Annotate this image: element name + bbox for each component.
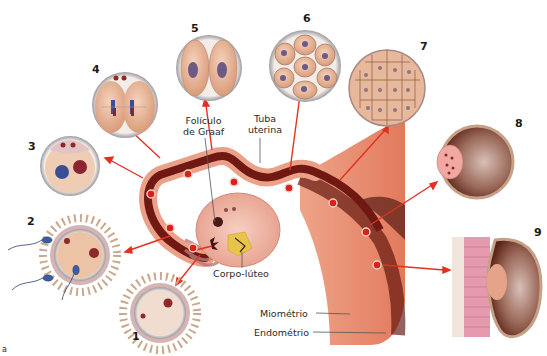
stage-7-morula	[349, 50, 425, 126]
label-graafian-follicle-line2: de Graaf	[183, 126, 224, 137]
label-corpus-luteum: Corpo-lúteo	[213, 268, 269, 279]
stage-6-eight-cell	[269, 30, 341, 102]
label-graafian-follicle-line1: Folículo	[183, 115, 224, 126]
stage-5-two-cell	[176, 35, 242, 101]
stage-number-4: 4	[92, 63, 100, 76]
stage-number-7: 7	[420, 40, 428, 53]
stage-9-implantation	[452, 237, 541, 337]
label-endometrium: Endométrio	[254, 327, 309, 338]
label-fallopian-tube-line2: uterina	[248, 124, 282, 135]
diagram-illustration	[0, 0, 547, 356]
stage-number-5: 5	[191, 22, 199, 35]
stage-number-1: 1	[132, 330, 140, 343]
stage-number-3: 3	[28, 140, 36, 153]
label-fallopian-tube: Tuba uterina	[248, 113, 282, 135]
stage-number-6: 6	[303, 12, 311, 25]
stage-3-zygote	[40, 136, 100, 196]
figure-letter: a	[2, 344, 7, 355]
fertilization-diagram: Folículo de Graaf Tuba uterina Corpo-lút…	[0, 0, 547, 356]
stage-8-blastocyst	[437, 126, 513, 198]
stage-number-9: 9	[534, 226, 542, 239]
label-myometrium: Miométrio	[260, 308, 308, 319]
stage-number-2: 2	[27, 215, 35, 228]
stage-4-first-division	[92, 72, 158, 138]
label-fallopian-tube-line1: Tuba	[248, 113, 282, 124]
stage-number-8: 8	[515, 117, 523, 130]
uterus	[300, 120, 405, 345]
ovary	[196, 193, 280, 267]
label-graafian-follicle: Folículo de Graaf	[183, 115, 224, 137]
stage-2-fertilization	[8, 218, 117, 300]
